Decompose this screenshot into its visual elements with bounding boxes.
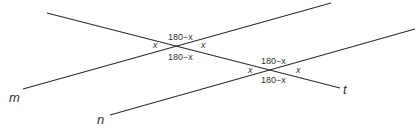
angle-1-right-label: x: [200, 40, 206, 50]
parallel-lines-transversal-diagram: m n t 180−x x x 180−x 180−x x x 180−x: [0, 0, 418, 128]
line-t-label: t: [343, 82, 348, 97]
angle-1-left-label: x: [152, 40, 158, 50]
angle-1-top-label: 180−x: [168, 32, 193, 42]
line-m-label: m: [9, 90, 20, 105]
angle-1-bottom-label: 180−x: [168, 52, 193, 62]
angle-2-left-label: x: [247, 65, 253, 75]
transversal-line-t: [47, 13, 340, 88]
angle-2-bottom-label: 180−x: [261, 75, 286, 85]
angle-2-top-label: 180−x: [261, 56, 286, 66]
line-n-label: n: [97, 112, 104, 127]
angle-2-right-label: x: [295, 65, 301, 75]
